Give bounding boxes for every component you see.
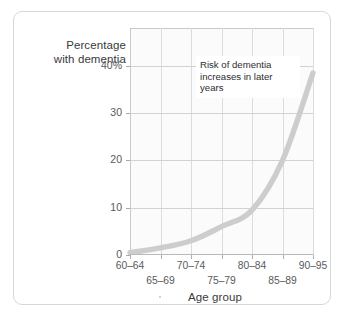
y-axis-tick-label: 30 <box>76 107 122 118</box>
y-axis-tick-label: 0 <box>76 249 122 260</box>
y-axis-tick-label: 10 <box>76 202 122 213</box>
annotation-line-3: years <box>200 82 296 94</box>
x-axis-tick-label: 90–95 <box>285 260 341 272</box>
x-axis-tick-mark <box>161 255 162 259</box>
annotation-line-2: increases in later <box>200 71 296 83</box>
x-axis-tick-label: 65–69 <box>133 275 189 287</box>
x-axis-tick-label: 60–64 <box>102 260 158 272</box>
y-axis-tick-label: 20 <box>76 154 122 165</box>
annotation-line-1: Risk of dementia <box>200 59 296 71</box>
annotation-callout: Risk of dementia increases in later year… <box>196 56 300 98</box>
x-axis-tick-label: 70–74 <box>163 260 219 272</box>
x-axis-title: Age group <box>160 291 270 303</box>
x-axis-tick-mark <box>252 255 253 259</box>
x-axis-tick-label: 80–84 <box>224 260 280 272</box>
x-axis-tick-mark <box>191 255 192 259</box>
x-axis-tick-label: 75–79 <box>194 275 250 287</box>
x-axis-tick-label: 85–89 <box>255 275 311 287</box>
y-axis-tick-label: 40% <box>76 60 122 71</box>
x-axis-tick-mark <box>313 255 314 259</box>
dementia-by-age-figure: Percentage with dementia 010203040% 60–6… <box>0 0 347 330</box>
x-axis-tick-mark <box>130 255 131 259</box>
curve-path <box>130 73 313 253</box>
y-axis-title-line-1: Percentage <box>26 38 126 52</box>
x-axis-tick-mark <box>222 255 223 259</box>
x-axis-tick-mark <box>283 255 284 259</box>
gridline-vertical <box>313 28 314 255</box>
